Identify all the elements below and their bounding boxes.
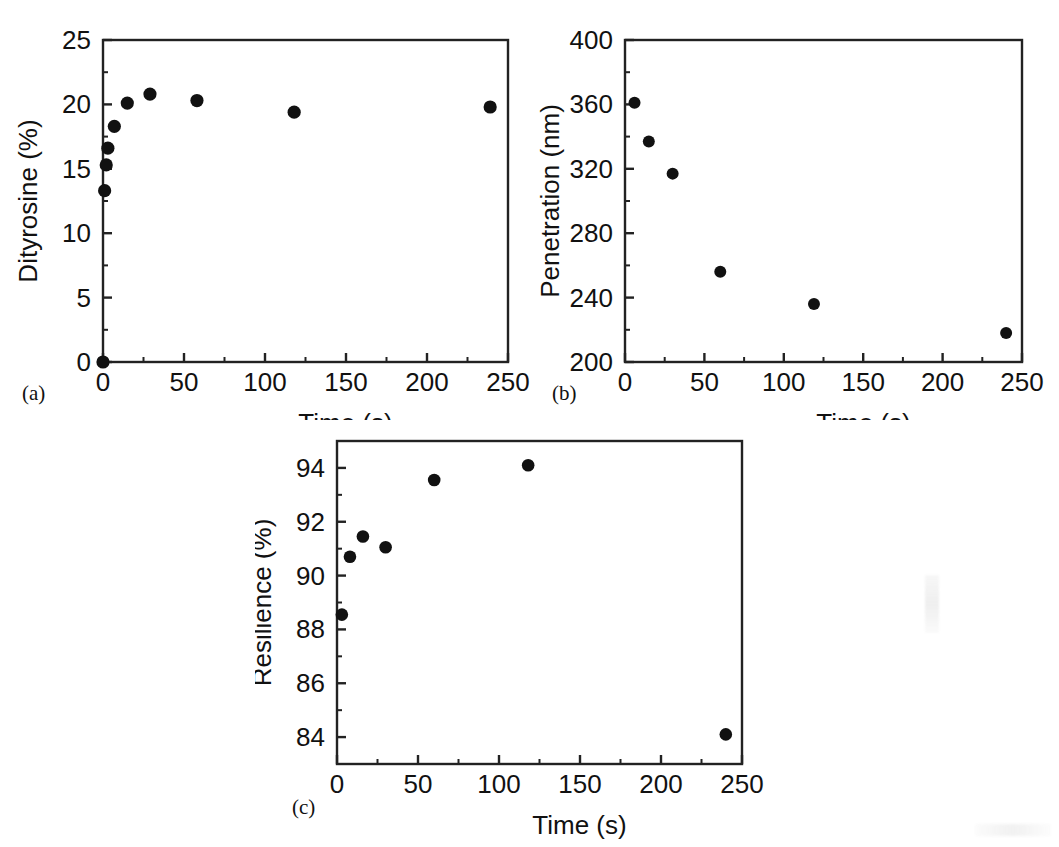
data-series (96, 88, 496, 369)
y-tick-label: 280 (570, 218, 613, 248)
y-axis-title: Dityrosine (%) (13, 119, 43, 282)
x-axis-title: Time (s) (532, 810, 626, 840)
figure-panel-group: 0501001502002500510152025Time (s)Dityros… (0, 0, 1059, 847)
x-tick-label: 100 (243, 367, 286, 397)
y-tick-label: 400 (570, 25, 613, 55)
data-point (1000, 327, 1012, 339)
x-tick-label: 150 (324, 367, 367, 397)
data-point (143, 88, 156, 101)
x-tick-label: 250 (720, 769, 763, 799)
data-point (344, 550, 357, 563)
data-point (629, 97, 641, 109)
x-tick-label: 50 (404, 769, 433, 799)
x-axis-title: Time (s) (298, 408, 392, 420)
y-tick-label: 200 (570, 347, 613, 377)
data-point (357, 530, 370, 543)
y-tick-label: 20 (62, 89, 91, 119)
data-point (190, 94, 203, 107)
y-tick-label: 84 (296, 722, 325, 752)
x-tick-label: 50 (170, 367, 199, 397)
y-tick-label: 320 (570, 154, 613, 184)
x-tick-label: 200 (921, 367, 964, 397)
x-tick-label: 100 (762, 367, 805, 397)
x-tick-label: 150 (842, 367, 885, 397)
data-point (98, 184, 111, 197)
panel-b: 050100150200250200240280320360400Time (s… (530, 0, 1059, 420)
data-point (100, 158, 113, 171)
scan-artifact (925, 575, 939, 633)
y-tick-label: 5 (77, 283, 91, 313)
data-point (522, 459, 535, 472)
y-tick-label: 25 (62, 25, 91, 55)
panel-c-tag: (c) (292, 795, 315, 820)
plot-frame (103, 40, 508, 362)
y-tick-label: 15 (62, 154, 91, 184)
y-tick-label: 10 (62, 218, 91, 248)
panel-b-plot: 050100150200250200240280320360400Time (s… (530, 0, 1059, 420)
y-tick-label: 240 (570, 283, 613, 313)
y-tick-label: 0 (77, 347, 91, 377)
data-point (379, 541, 392, 554)
panel-b-tag: (b) (552, 381, 577, 406)
data-series (629, 97, 1013, 339)
panel-c-plot: 050100150200250848688909294Time (s)Resil… (255, 420, 795, 847)
x-tick-label: 150 (558, 769, 601, 799)
x-tick-label: 0 (96, 367, 110, 397)
data-point (96, 355, 109, 368)
data-point (720, 728, 733, 741)
plot-frame (625, 40, 1022, 362)
x-tick-label: 0 (618, 367, 632, 397)
panel-a-plot: 0501001502002500510152025Time (s)Dityros… (0, 0, 540, 420)
data-point (121, 97, 134, 110)
data-point (808, 298, 820, 310)
panel-a-tag: (a) (22, 381, 45, 406)
x-tick-label: 200 (639, 769, 682, 799)
x-tick-label: 50 (690, 367, 719, 397)
y-axis-title: Resilience (%) (255, 519, 277, 687)
data-point (667, 168, 679, 180)
data-point (101, 142, 114, 155)
y-tick-label: 88 (296, 614, 325, 644)
data-point (288, 106, 301, 119)
y-tick-label: 86 (296, 668, 325, 698)
x-axis-title: Time (s) (816, 408, 910, 420)
x-tick-label: 100 (477, 769, 520, 799)
panel-c: 050100150200250848688909294Time (s)Resil… (255, 420, 795, 847)
panel-a: 0501001502002500510152025Time (s)Dityros… (0, 0, 540, 420)
y-axis-title: Penetration (nm) (535, 104, 565, 298)
x-tick-label: 0 (330, 769, 344, 799)
data-point (428, 474, 441, 487)
data-series (336, 459, 733, 741)
y-tick-label: 90 (296, 561, 325, 591)
x-tick-label: 250 (486, 367, 529, 397)
data-point (484, 100, 497, 113)
data-point (714, 266, 726, 278)
plot-frame (337, 441, 742, 764)
scan-artifact-bottom (975, 824, 1051, 836)
x-tick-label: 200 (405, 367, 448, 397)
data-point (643, 135, 655, 147)
x-tick-label: 250 (1000, 367, 1043, 397)
data-point (336, 608, 349, 621)
y-tick-label: 92 (296, 507, 325, 537)
data-point (108, 120, 121, 133)
y-tick-label: 94 (296, 453, 325, 483)
y-tick-label: 360 (570, 89, 613, 119)
